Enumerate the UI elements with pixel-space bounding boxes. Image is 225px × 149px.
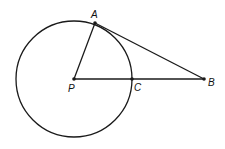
label-p: P [68, 83, 75, 94]
label-a: A [90, 9, 98, 20]
point-c [130, 77, 134, 81]
point-a [93, 21, 97, 25]
geometry-diagram: A P C B [0, 0, 225, 149]
label-b: B [208, 77, 215, 88]
segment-ab [95, 23, 204, 79]
point-p [72, 77, 76, 81]
segment-pa [74, 23, 95, 79]
label-c: C [134, 82, 142, 93]
point-b [202, 77, 206, 81]
